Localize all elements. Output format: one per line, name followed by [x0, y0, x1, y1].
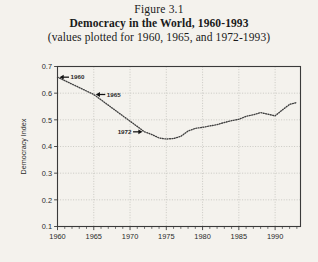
x-axis-tick-label: 1990: [267, 232, 283, 241]
annotation-label: 1972: [118, 128, 132, 135]
x-axis-tick-label: 1985: [231, 232, 247, 241]
y-axis-tick-label: 0.4: [42, 142, 52, 151]
figure-container: Figure 3.1 Democracy in the World, 1960-…: [0, 0, 318, 262]
data-series-democracy-index: [58, 77, 297, 139]
x-axis-tick-label: 1975: [158, 232, 174, 241]
y-axis-tick-label: 0.1: [42, 222, 52, 231]
x-axis: 1960196519701975198019851990: [49, 227, 297, 242]
x-axis-tick-label: 1970: [122, 232, 138, 241]
y-axis-title: Democracy Index: [19, 118, 28, 174]
x-axis-tick-label: 1980: [194, 232, 210, 241]
democracy-index-line-chart: 19601965197019751980198519900.10.20.30.4…: [0, 0, 318, 262]
y-axis-tick-label: 0.6: [42, 89, 52, 98]
annotation-label: 1965: [107, 91, 121, 98]
x-axis-tick-label: 1965: [86, 232, 102, 241]
x-axis-tick-label: 1960: [49, 232, 65, 241]
y-axis-tick-label: 0.3: [42, 169, 52, 178]
annotation-label: 1960: [71, 73, 85, 80]
y-axis-tick-label: 0.7: [42, 62, 52, 71]
y-axis-tick-label: 0.5: [42, 116, 52, 125]
y-axis: 0.10.20.30.40.50.60.7: [42, 62, 58, 231]
annotation-arrow-head: [138, 129, 142, 134]
y-axis-tick-label: 0.2: [42, 196, 52, 205]
gridlines: [58, 67, 301, 227]
